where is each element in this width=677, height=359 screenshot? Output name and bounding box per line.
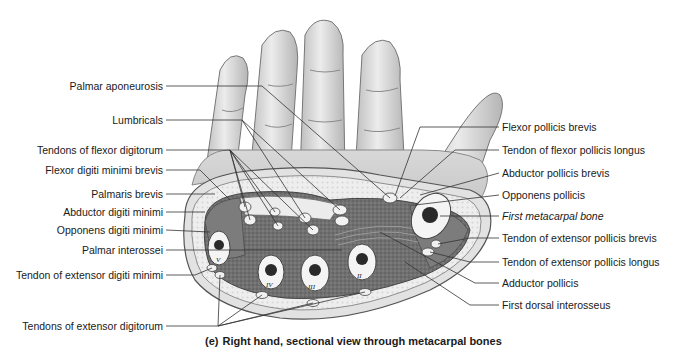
label-lumbricals: Lumbricals [112,114,163,126]
label-first-metacarpal-bone: First metacarpal bone [502,210,604,222]
label-tendons-extensor-digitorum: Tendons of extensor digitorum [22,320,163,332]
label-palmar-interossei: Palmar interossei [82,244,163,256]
figure-caption: (e)Right hand, sectional view through me… [205,335,502,347]
label-palmar-aponeurosis: Palmar aponeurosis [70,80,163,92]
bone-numeral-v: V [216,256,221,264]
label-opponens-pollicis: Opponens pollicis [502,189,585,201]
caption-tag: (e) [205,335,218,347]
label-adductor-pollicis: Adductor pollicis [502,277,578,289]
label-first-dorsal-interosseus: First dorsal interosseus [502,299,611,311]
label-flexor-pollicis-brevis: Flexor pollicis brevis [502,121,597,133]
label-tendon-extensor-pollicis-brevis: Tendon of extensor pollicis brevis [502,232,657,244]
bone-numeral-iv: IV [265,281,273,289]
label-tendon-flexor-pollicis-longus: Tendon of flexor pollicis longus [502,144,645,156]
bone-numeral-ii: II [356,272,362,280]
label-tendon-extensor-pollicis-longus: Tendon of extensor pollicis longus [502,256,660,268]
label-abductor-digiti-minimi: Abductor digiti minimi [63,206,163,218]
caption-text: Right hand, sectional view through metac… [222,335,501,347]
label-palmaris-brevis: Palmaris brevis [91,188,163,200]
label-opponens-digiti-minimi: Opponens digiti minimi [57,224,163,236]
label-abductor-pollicis-brevis: Abductor pollicis brevis [502,167,609,179]
label-tendon-extensor-digiti-minimi: Tendon of extensor digiti minimi [16,269,163,281]
cross-section: V IV III II [184,168,491,320]
bone-numeral-iii: III [307,283,316,291]
label-flexor-digiti-minimi-brevis: Flexor digiti minimi brevis [45,164,163,176]
label-tendons-flexor-digitorum: Tendons of flexor digitorum [37,144,163,156]
